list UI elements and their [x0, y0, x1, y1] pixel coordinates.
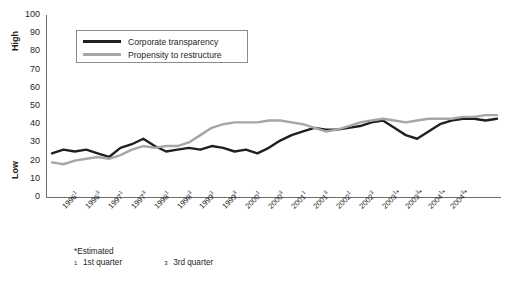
legend-swatch-dark-line: [83, 40, 121, 43]
footnote-quarter3-text: 3rd quarter: [173, 257, 213, 268]
x-axis-tick-label: 20011: [290, 191, 310, 211]
x-axis-tick-label: 19961: [61, 191, 81, 211]
x-axis-tick-label: 19971: [107, 191, 127, 211]
x-axis-tick-label: 20031*: [381, 189, 403, 211]
footnote-estimated: * Estimated: [74, 246, 374, 257]
legend-label-propensity-to-restructure: Propensity to restructure: [128, 50, 222, 60]
x-axis-tick-label: 20021: [335, 191, 355, 211]
x-axis-tick-label: 19991: [198, 191, 218, 211]
x-axis-tick-label: 20001: [244, 191, 264, 211]
chart-footnotes: * Estimated 1 1st quarter 3 3rd quarter: [74, 246, 374, 269]
x-axis-tick-label: 19993: [221, 191, 241, 211]
chart-container: High Low 0102030405060708090100 19961199…: [0, 0, 507, 281]
legend-item-corporate-transparency: Corporate transparency: [83, 35, 241, 48]
x-axis-tick-label: 20043*: [449, 189, 471, 211]
legend-item-propensity-to-restructure: Propensity to restructure: [83, 48, 241, 61]
x-axis-tick-label: 19973: [130, 191, 150, 211]
legend-label-corporate-transparency: Corporate transparency: [128, 37, 218, 47]
x-axis-tick-label: 20041*: [427, 189, 449, 211]
footnote-estimated-text: Estimated: [77, 246, 113, 257]
x-axis-tick-label: 20003: [267, 191, 287, 211]
footnote-quarter1-text: 1st quarter: [83, 257, 122, 268]
footnote-quarters: 1 1st quarter 3 3rd quarter: [74, 257, 374, 269]
x-axis-tick-label: 20013: [312, 191, 332, 211]
x-axis-tick-label: 19983: [176, 191, 196, 211]
x-axis-tick-label: 20023: [358, 191, 378, 211]
x-axis-tick-label: 20033*: [404, 189, 426, 211]
chart-legend: Corporate transparency Propensity to res…: [76, 30, 248, 63]
x-axis-tick-label: 19981: [153, 191, 173, 211]
footnote-quarter1-marker: 1: [74, 258, 83, 269]
legend-swatch-gray-line: [83, 53, 121, 56]
footnote-quarter3-marker: 3: [164, 258, 173, 269]
x-axis-tick-label: 19963: [84, 191, 104, 211]
